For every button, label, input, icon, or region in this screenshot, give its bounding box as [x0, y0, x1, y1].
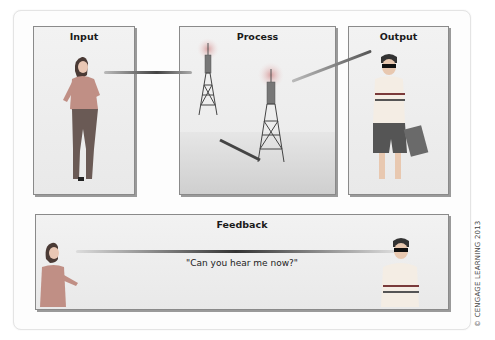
feedback-link [76, 250, 396, 253]
feedback-man-icon [381, 215, 441, 309]
cell-tower-icon [180, 27, 335, 194]
input-process-link [104, 71, 192, 74]
feedback-panel: Feedback "Can you hear me now?" [35, 214, 449, 310]
process-panel: Process [179, 26, 336, 195]
woman-figure-icon [34, 27, 134, 194]
tower-link [220, 140, 260, 160]
input-panel: Input [33, 26, 135, 195]
feedback-woman-icon [36, 215, 96, 309]
copyright-notice: © CENGAGE LEARNING 2013 [474, 220, 482, 327]
